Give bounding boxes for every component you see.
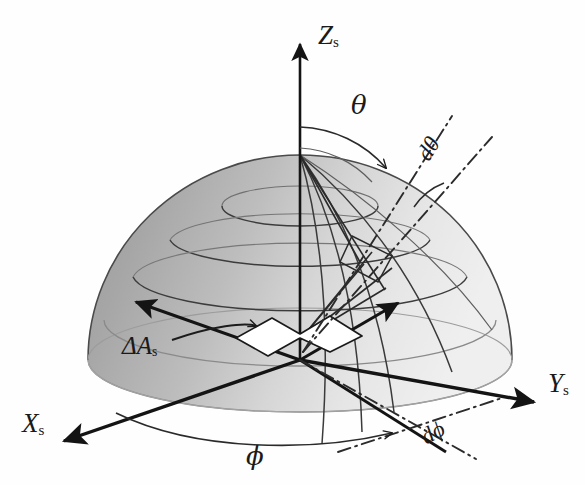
y-axis-label-subscript: s (563, 382, 569, 398)
phi-label: ϕ (246, 443, 264, 469)
x-axis-label: Xs (22, 410, 44, 438)
area-element-label: ΔAs (122, 333, 157, 359)
theta-label: θ (351, 92, 367, 118)
area-element-label-text: ΔA (122, 332, 152, 359)
spherical-coordinate-diagram: Zs Ys Xs θ ϕ dθ dϕ ΔAs (0, 0, 585, 485)
area-element-label-subscript: s (152, 344, 157, 359)
z-axis-label: Zs (318, 22, 339, 50)
x-axis-label-text: X (22, 408, 39, 438)
z-axis-label-text: Z (318, 20, 333, 50)
x-axis-label-subscript: s (39, 422, 45, 438)
y-axis-label-text: Y (548, 368, 563, 398)
diagram-canvas (0, 0, 585, 485)
y-axis-label: Ys (548, 370, 569, 398)
z-axis-label-subscript: s (333, 34, 339, 50)
